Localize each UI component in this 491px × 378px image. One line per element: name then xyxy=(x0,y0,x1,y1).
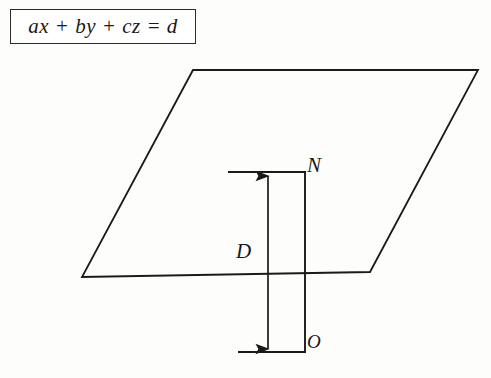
geometry-figure: ax + by + cz = d N D O xyxy=(0,0,491,378)
plane-parallelogram xyxy=(82,70,478,277)
label-origin-o: O xyxy=(307,331,321,353)
label-distance-d: D xyxy=(236,239,251,264)
diagram-canvas xyxy=(0,0,491,378)
label-normal-point-n: N xyxy=(307,153,321,178)
cropped-caption xyxy=(0,364,491,378)
